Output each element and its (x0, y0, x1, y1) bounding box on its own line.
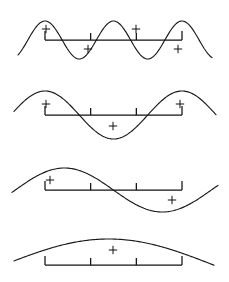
wave-panel-2 (14, 91, 216, 139)
plus-marker-3-2 (168, 196, 176, 204)
wave-harmonics-figure (0, 0, 229, 282)
wave-panel-1 (18, 21, 212, 59)
figure-canvas (0, 0, 229, 282)
wave-curve-4 (14, 239, 214, 265)
plus-marker-4-1 (109, 246, 117, 254)
panels-layer (12, 21, 218, 265)
plus-marker-1-2 (84, 45, 92, 53)
plus-marker-1-1 (42, 25, 50, 33)
wave-panel-3 (12, 168, 218, 212)
plus-marker-2-1 (42, 100, 50, 108)
plus-marker-3-1 (46, 176, 54, 184)
plus-marker-2-3 (176, 100, 184, 108)
plus-marker-1-4 (174, 45, 182, 53)
plus-marker-1-3 (132, 25, 140, 33)
wave-panel-4 (14, 239, 214, 265)
plus-marker-2-2 (109, 122, 117, 130)
